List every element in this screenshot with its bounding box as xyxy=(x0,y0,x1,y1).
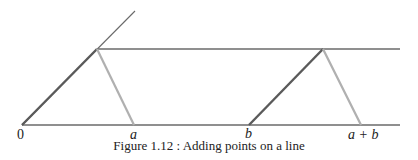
segment-to-a xyxy=(97,49,134,125)
unit-segment-origin xyxy=(22,49,97,125)
segment-to-a-plus-b xyxy=(323,49,361,125)
unit-segment-b xyxy=(249,49,323,125)
figure-caption: Figure 1.12 : Adding points on a line xyxy=(0,138,418,154)
